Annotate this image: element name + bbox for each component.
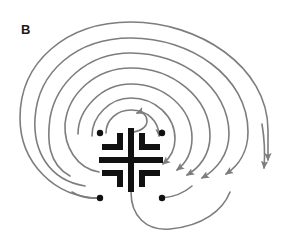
arc-lower-right-connector	[162, 186, 192, 198]
seed-pattern-group	[99, 128, 163, 192]
figure-canvas: B	[0, 0, 290, 240]
arc-bottom-entry	[131, 192, 230, 229]
panel-label: B	[21, 23, 31, 36]
corner-lower-right	[142, 173, 160, 187]
dot-upper-left	[97, 130, 103, 136]
arc-right-descender	[262, 124, 265, 168]
arc-group	[20, 22, 268, 229]
dot-upper-right	[159, 130, 165, 136]
labyrinth-diagram	[0, 0, 290, 240]
dot-lower-left	[97, 195, 103, 201]
corner-upper-right	[142, 133, 160, 147]
corner-lower-left	[102, 173, 120, 187]
dot-lower-right	[159, 195, 165, 201]
corner-upper-left	[102, 133, 120, 147]
